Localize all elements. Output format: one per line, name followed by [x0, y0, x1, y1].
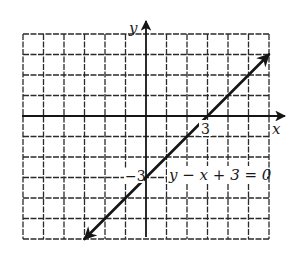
x-intercept-label: 3 [201, 121, 210, 137]
plotted-line-y-minus-x-plus-3 [85, 55, 270, 240]
y-intercept-label: −3 [125, 168, 146, 184]
x-axis-label: x [272, 120, 281, 138]
equation-label: y − x + 3 = 0 [168, 166, 272, 184]
coordinate-graph: y x 3 −3 y − x + 3 = 0 [0, 0, 294, 256]
y-axis-label: y [128, 19, 138, 37]
